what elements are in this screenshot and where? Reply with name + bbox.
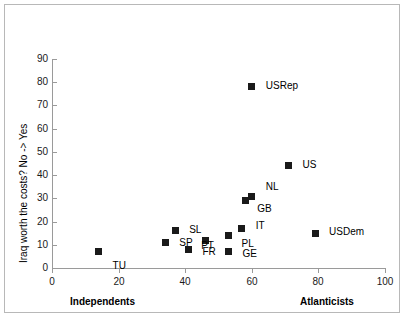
data-point-label: IT (256, 221, 265, 231)
x-tick-mark (252, 269, 253, 273)
y-tick-mark (53, 82, 57, 83)
y-tick-mark (53, 245, 57, 246)
x-axis-line (52, 268, 386, 269)
y-tick-mark (53, 105, 57, 106)
data-point-marker (248, 83, 255, 90)
data-point-marker (185, 246, 192, 253)
data-point-label: GB (257, 204, 271, 214)
data-point-marker (95, 248, 102, 255)
data-point-marker (225, 248, 232, 255)
data-point-label: NL (266, 182, 279, 192)
data-point-marker (248, 193, 255, 200)
data-point-marker (172, 227, 179, 234)
y-tick-label: 10 (22, 240, 48, 250)
data-point-label: USDem (329, 227, 364, 237)
data-point-label: US (302, 160, 316, 170)
x-tick-label: 100 (370, 277, 400, 287)
x-tick-label: 60 (237, 277, 267, 287)
y-tick-label: 60 (22, 124, 48, 134)
y-tick-label: 20 (22, 217, 48, 227)
y-tick-mark (53, 222, 57, 223)
chart-screenshot: Iraq worth the costs? No -> Yes 01020304… (0, 0, 405, 318)
y-tick-mark (53, 268, 57, 269)
data-point-marker (225, 232, 232, 239)
y-tick-label: 70 (22, 100, 48, 110)
data-point-label: GE (242, 249, 256, 259)
x-axis-right-endpoint-label: Atlanticists (300, 296, 354, 307)
y-tick-label: 30 (22, 193, 48, 203)
y-tick-label: 80 (22, 77, 48, 87)
x-tick-mark (52, 269, 53, 273)
scatter-plot-area: Iraq worth the costs? No -> Yes 01020304… (0, 0, 405, 318)
data-point-label: USRep (266, 81, 298, 91)
y-axis-line (52, 59, 53, 269)
x-tick-label: 80 (303, 277, 333, 287)
y-tick-mark (53, 198, 57, 199)
data-point-label: SL (189, 225, 201, 235)
x-tick-mark (385, 269, 386, 273)
data-point-marker (312, 230, 319, 237)
y-tick-label: 90 (22, 54, 48, 64)
y-tick-label: 0 (22, 263, 48, 273)
data-point-label: PT (201, 241, 214, 251)
data-point-marker (285, 162, 292, 169)
data-point-label: TU (113, 261, 126, 271)
y-tick-label: 40 (22, 170, 48, 180)
y-tick-label: 50 (22, 147, 48, 157)
x-tick-label: 40 (170, 277, 200, 287)
y-tick-mark (53, 152, 57, 153)
x-axis-left-endpoint-label: Independents (70, 296, 135, 307)
y-tick-mark (53, 175, 57, 176)
data-point-marker (238, 225, 245, 232)
y-tick-mark (53, 129, 57, 130)
x-tick-mark (318, 269, 319, 273)
data-point-marker (162, 239, 169, 246)
x-tick-mark (185, 269, 186, 273)
x-tick-label: 0 (37, 277, 67, 287)
y-tick-mark (53, 59, 57, 60)
x-tick-label: 20 (104, 277, 134, 287)
